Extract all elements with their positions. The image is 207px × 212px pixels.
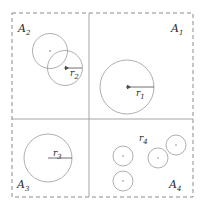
center-dot — [49, 50, 51, 52]
region-a3: r3 A3 — [16, 134, 72, 193]
radius-label-r2-subscript: 2 — [73, 73, 79, 81]
quadrant-circle-diagram: r2 A2 r1 A1 r3 A3 — [0, 0, 207, 212]
region-label-a3-letter: A — [16, 178, 25, 191]
center-dot — [175, 144, 176, 145]
center-dot — [122, 155, 123, 156]
radius-label-r1-subscript: 1 — [140, 93, 144, 101]
radius-label-r1: r1 — [136, 88, 145, 101]
region-a1: r1 A1 — [100, 22, 183, 114]
figure-container: r2 A2 r1 A1 r3 A3 — [0, 0, 207, 212]
radius-label-r2: r2 — [70, 68, 79, 81]
center-dot — [122, 180, 123, 181]
region-a4: r4 A4 — [113, 133, 186, 193]
region-label-a2-subscript: 2 — [25, 29, 31, 37]
region-label-a4-letter: A — [168, 178, 177, 191]
radius-label-r3-subscript: 3 — [57, 153, 62, 161]
region-label-a4: A4 — [168, 178, 181, 193]
region-label-a3-subscript: 3 — [25, 185, 30, 193]
outer-boundary-rect — [12, 13, 193, 197]
radius-label-r4-subscript: 4 — [142, 138, 147, 146]
region-a2: r2 A2 — [17, 22, 83, 86]
radius-label-r3: r3 — [53, 148, 62, 161]
region-label-a1: A1 — [170, 22, 183, 37]
region-label-a4-subscript: 4 — [176, 185, 181, 193]
region-label-a1-letter: A — [170, 22, 179, 35]
region-label-a1-subscript: 1 — [179, 29, 183, 37]
center-dot — [157, 157, 158, 158]
radius-label-r4: r4 — [139, 133, 148, 146]
region-label-a2: A2 — [17, 22, 31, 37]
region-label-a2-letter: A — [17, 22, 26, 35]
region-label-a3: A3 — [16, 178, 30, 193]
